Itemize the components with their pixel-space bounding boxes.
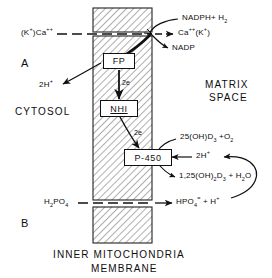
protons-matrix-count: 2H [196, 151, 207, 160]
substrate-pre: 25(OH)D [180, 132, 213, 141]
phosphate-out-post: + H [201, 197, 217, 206]
protons-matrix-charge: + [207, 149, 210, 155]
figure-canvas: A B CYTOSOL MATRIX SPACE INNER MITOCHOND… [0, 0, 272, 278]
box-cytochrome-p450-label: P-450 [134, 153, 161, 163]
nadph-input-arrow [150, 19, 178, 33]
compartment-label-matrix-line1: MATRIX [205, 80, 249, 90]
species-nadph: NADPH+ H2 [182, 14, 228, 22]
species-protons-cytosol: 2H+ [39, 81, 53, 89]
phosphate-out-pre: HPO [176, 197, 194, 206]
box-cytochrome-p450: P-450 [124, 149, 172, 166]
product-pre: 1,25(OH) [179, 171, 214, 180]
nadph-sub: 2 [224, 18, 227, 24]
membrane-slab-bottom [93, 207, 152, 243]
compartment-label-matrix-line2: SPACE [209, 93, 248, 103]
electron-label-nhi-p450: 2e [134, 129, 142, 136]
species-phosphate-cytosol: H2PO4 [44, 198, 68, 206]
compartment-label-cytosol: CYTOSOL [15, 107, 70, 117]
species-nadp: NADP [172, 44, 195, 52]
phosphate-in-post: PO [53, 197, 65, 206]
product-post: + H [226, 171, 242, 180]
box-non-heme-iron-label: NHI [110, 104, 127, 114]
product-post2: O [245, 171, 251, 180]
phosphate-in-sub2: 4 [65, 202, 68, 208]
nadp-output-arrow [150, 33, 168, 48]
membrane-caption-line2: MEMBRANE [91, 264, 158, 274]
phosphate-out-sub: 4 [194, 202, 197, 208]
protons-cytosol-count: 2H [39, 80, 50, 89]
species-phosphate-matrix: HPO4= + H+ [176, 198, 220, 206]
panel-label-b: B [21, 218, 30, 229]
cation-in-mid: )Ca [33, 28, 47, 37]
nadph-text: NADPH+ H [182, 13, 224, 22]
substrate-sub2: 2 [230, 137, 233, 143]
phosphate-out-charge2: + [216, 195, 219, 201]
electron-label-fp-nhi: 2e [122, 79, 130, 86]
panel-label-a: A [21, 58, 30, 69]
membrane-slab-top [93, 8, 152, 32]
species-cation-matrix: Ca++(K+) [178, 29, 210, 37]
box-non-heme-iron: NHI [100, 100, 138, 117]
cation-out-suffix: ) [207, 28, 210, 37]
substrate-post: +O [217, 132, 231, 141]
membrane-caption-line1: INNER MITOCHONDRIA [53, 250, 185, 260]
species-cation-cytosol: (K+)Ca++ [21, 29, 53, 37]
cation-out-mid: (K [195, 28, 203, 37]
species-substrate: 25(OH)D3 +O2 [180, 133, 234, 141]
species-product: 1,25(OH)2D3 + H2O [179, 172, 251, 180]
protons-cytosol-charge: + [50, 78, 53, 84]
species-protons-matrix: 2H+ [196, 152, 210, 160]
box-flavoprotein: FP [103, 53, 135, 69]
box-flavoprotein-label: FP [113, 56, 126, 66]
cation-out-prefix: Ca [178, 28, 189, 37]
cation-in-charge: ++ [46, 26, 53, 32]
